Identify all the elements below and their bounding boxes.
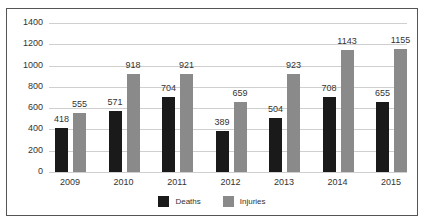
x-tick-label: 2011 — [157, 177, 197, 187]
x-tick-label: 2012 — [211, 177, 251, 187]
value-label: 504 — [261, 104, 291, 114]
bar-injuries-2013 — [287, 74, 300, 172]
bar-injuries-2010 — [127, 74, 140, 172]
bar-deaths-2009 — [55, 128, 68, 172]
legend-label-deaths: Deaths — [175, 197, 200, 206]
x-tick-label: 2009 — [50, 177, 90, 187]
legend-item-injuries: Injuries — [223, 196, 266, 207]
bar-deaths-2011 — [162, 97, 175, 172]
bar-deaths-2010 — [109, 111, 122, 172]
bar-injuries-2015 — [394, 49, 407, 172]
deaths-swatch — [158, 196, 169, 207]
bar-injuries-2011 — [180, 74, 193, 172]
legend-label-injuries: Injuries — [240, 197, 266, 206]
value-label: 923 — [279, 60, 309, 70]
y-tick-label: 600 — [17, 102, 43, 112]
value-label: 1143 — [332, 36, 362, 46]
gridline — [49, 172, 407, 173]
value-label: 555 — [65, 99, 95, 109]
value-label: 918 — [118, 60, 148, 70]
value-label: 704 — [154, 83, 184, 93]
bar-injuries-2009 — [73, 113, 86, 172]
y-tick-label: 0 — [17, 166, 43, 176]
bar-injuries-2014 — [341, 50, 354, 172]
x-tick-label: 2010 — [104, 177, 144, 187]
value-label: 708 — [314, 83, 344, 93]
value-label: 655 — [368, 88, 398, 98]
y-tick-label: 1000 — [17, 60, 43, 70]
x-tick-label: 2015 — [371, 177, 411, 187]
gridline — [49, 23, 407, 24]
x-tick-label: 2013 — [264, 177, 304, 187]
value-label: 571 — [100, 97, 130, 107]
chart-frame: 0200400600800100012001400418555200957191… — [6, 8, 418, 216]
value-label: 921 — [172, 60, 202, 70]
value-label: 418 — [47, 114, 77, 124]
legend-item-deaths: Deaths — [158, 196, 200, 207]
legend: Deaths Injuries — [7, 196, 417, 207]
y-tick-label: 800 — [17, 81, 43, 91]
bar-injuries-2012 — [234, 102, 247, 172]
bar-deaths-2014 — [323, 97, 336, 172]
x-tick-label: 2014 — [318, 177, 358, 187]
bar-deaths-2013 — [269, 118, 282, 172]
y-tick-label: 1400 — [17, 17, 43, 27]
injuries-swatch — [223, 196, 234, 207]
value-label: 659 — [225, 88, 255, 98]
y-tick-label: 1200 — [17, 38, 43, 48]
value-label: 1155 — [386, 35, 416, 45]
bar-deaths-2012 — [216, 131, 229, 172]
y-tick-label: 400 — [17, 123, 43, 133]
value-label: 389 — [207, 117, 237, 127]
bar-deaths-2015 — [376, 102, 389, 172]
y-tick-label: 200 — [17, 145, 43, 155]
